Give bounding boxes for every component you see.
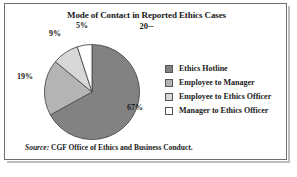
source-note: Source: CGF Office of Ethics and Busines… [25, 143, 193, 152]
pie-chart [43, 43, 141, 141]
legend-swatch-ethics-hotline [165, 65, 173, 73]
legend-item-manager-to-ethics-officer: Manager to Ethics Officer [165, 104, 271, 117]
legend-item-ethics-hotline: Ethics Hotline [165, 62, 271, 75]
figure-frame: Mode of Contact in Reported Ethics Cases… [4, 3, 287, 160]
source-note-text: CGF Office of Ethics and Business Conduc… [49, 143, 193, 152]
pie-slice-group [44, 44, 139, 139]
pie-slice-label-manager-to-ethics-officer: 5% [76, 21, 88, 30]
legend-label-ethics-hotline: Ethics Hotline [179, 64, 228, 73]
legend-label-employee-to-manager: Employee to Manager [179, 78, 255, 87]
chart-title: Mode of Contact in Reported Ethics Cases [5, 10, 288, 21]
figure-shadow-right [288, 6, 290, 163]
legend-swatch-employee-to-ethics-officer [165, 93, 173, 101]
legend-label-employee-to-ethics-officer: Employee to Ethics Officer [179, 92, 271, 101]
pie-chart-svg [43, 43, 141, 141]
chart-title-block: Mode of Contact in Reported Ethics Cases… [5, 10, 288, 32]
legend-swatch-employee-to-manager [165, 79, 173, 87]
source-note-prefix: Source: [25, 143, 49, 152]
pie-slice-label-employee-to-manager: 19% [17, 72, 33, 81]
legend-swatch-manager-to-ethics-officer [165, 107, 173, 115]
legend-item-employee-to-manager: Employee to Manager [165, 76, 271, 89]
chart-subtitle: 20-- [5, 21, 288, 32]
legend-label-manager-to-ethics-officer: Manager to Ethics Officer [179, 106, 268, 115]
figure-shadow-bottom [7, 161, 290, 163]
pie-slice-label-ethics-hotline: 67% [127, 103, 143, 112]
legend-item-employee-to-ethics-officer: Employee to Ethics Officer [165, 90, 271, 103]
chart-legend: Ethics Hotline Employee to Manager Emplo… [165, 62, 271, 118]
pie-slice-label-employee-to-ethics-officer: 9% [49, 29, 61, 38]
